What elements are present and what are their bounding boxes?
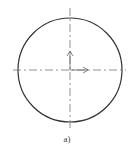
right-arrow-icon	[70, 67, 88, 73]
up-arrow-icon	[67, 51, 73, 70]
circle-diagram	[0, 0, 134, 149]
figure-caption: a)	[0, 134, 134, 144]
